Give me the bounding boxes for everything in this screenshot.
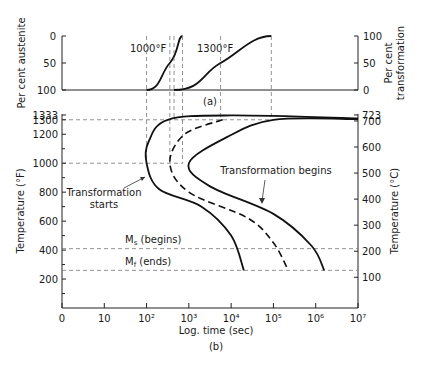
y-left-tick-label: 600 <box>39 216 58 227</box>
y-left-tick-label: 200 <box>39 274 58 285</box>
x-tick-label: 10⁶ <box>307 313 324 324</box>
ttt-diagram: 050100100500 Per cent austenite Per cent… <box>0 0 423 368</box>
y-right-tick-label: 700 <box>362 116 381 127</box>
y-right-tick-label: 300 <box>362 220 381 231</box>
annotation-arrow-begins <box>262 180 265 201</box>
panel-b-xlabel: Log. time (sec) <box>179 325 254 336</box>
series-label-1000f: 1000°F <box>130 43 166 54</box>
series-label-1300f: 1300°F <box>197 43 233 54</box>
panel-a-ylabel-right-1: Per cent <box>383 42 394 83</box>
x-tick-label: 0 <box>59 313 65 324</box>
x-tick-label: 10² <box>138 313 155 324</box>
annotation-transformation-begins: Transformation begins <box>219 165 331 176</box>
panel-b: 1333130012001000800600400200723700600500… <box>15 110 400 352</box>
y-right-tick-label: 100 <box>362 272 381 283</box>
ms-label: Ms (begins) <box>125 234 182 247</box>
x-tick-label: 10⁴ <box>223 313 240 324</box>
panel-a-caption: (a) <box>203 96 217 107</box>
y-right-tick-label: 200 <box>362 246 381 257</box>
annotation-arrowhead-begins <box>259 198 265 204</box>
panel-b-caption: (b) <box>209 341 223 352</box>
y-left-tick-label: 1200 <box>33 129 58 140</box>
y-right-tick-label: 500 <box>362 168 381 179</box>
panel-a-left-tick-label: 0 <box>50 31 56 42</box>
panel-a-right-tick-label: 100 <box>363 31 382 42</box>
panel-b-ylabel-right: Temperature (°C) <box>389 168 400 255</box>
panel-a: 050100100500 Per cent austenite Per cent… <box>16 17 406 108</box>
x-tick-label: 10³ <box>180 313 197 324</box>
ttt-end-curve <box>188 118 358 270</box>
x-tick-label: 10⁵ <box>265 313 282 324</box>
panel-a-right-tick-label: 50 <box>363 58 376 69</box>
annotation-transformation-starts-line2: starts <box>90 199 119 210</box>
panel-a-ylabel-left: Per cent austenite <box>16 17 27 108</box>
annotation-transformation-starts-line1: Transformation <box>65 187 141 198</box>
panel-a-right-tick-label: 0 <box>363 85 369 96</box>
y-left-tick-label: 400 <box>39 245 58 256</box>
panel-a-ylabel-right-2: transformation <box>395 26 406 100</box>
y-left-tick-label: 1000 <box>33 158 58 169</box>
y-left-tick-label: 800 <box>39 187 58 198</box>
x-tick-label: 10 <box>98 313 111 324</box>
ttt-start-curve <box>146 115 358 270</box>
y-right-tick-label: 600 <box>362 142 381 153</box>
panel-b-ylabel-left: Temperature (°F) <box>15 168 26 254</box>
panel-a-left-tick-label: 50 <box>43 58 56 69</box>
y-right-tick-label: 400 <box>362 194 381 205</box>
x-tick-label: 10⁷ <box>350 313 367 324</box>
mf-label: Mf (ends) <box>125 256 171 269</box>
y-left-tick-label: 1300 <box>33 115 58 126</box>
panel-a-left-tick-label: 100 <box>37 85 56 96</box>
